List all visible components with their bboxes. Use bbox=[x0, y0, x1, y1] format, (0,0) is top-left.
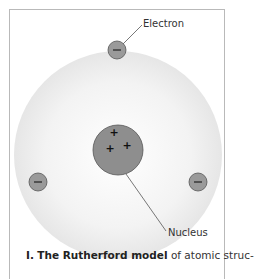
proton-charge: + bbox=[122, 139, 131, 152]
electron-top bbox=[108, 41, 126, 59]
electron-left bbox=[29, 173, 47, 191]
caption-text: of atomic struc- bbox=[168, 249, 254, 261]
proton-charge: + bbox=[109, 126, 118, 139]
caption-number: I. bbox=[26, 249, 34, 261]
electron-leader-line bbox=[123, 25, 142, 44]
proton-charge: + bbox=[105, 142, 114, 155]
nucleus-label: Nucleus bbox=[168, 227, 208, 238]
electron-right bbox=[189, 173, 207, 191]
electron-label: Electron bbox=[143, 18, 184, 29]
figure-caption: I. The Rutherford model of atomic struc- bbox=[26, 249, 254, 261]
nucleus: + + + bbox=[93, 125, 143, 175]
caption-title: The Rutherford model bbox=[37, 249, 167, 261]
